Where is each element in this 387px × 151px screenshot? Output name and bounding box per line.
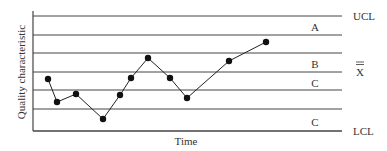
data-point <box>100 116 106 122</box>
zone-label-c-upper: C <box>311 77 318 89</box>
lcl-label: LCL <box>353 125 374 137</box>
data-point <box>117 92 123 98</box>
zone-label-a: A <box>311 21 319 33</box>
xbar-label: X <box>356 66 364 78</box>
zone-label-b: B <box>311 58 318 70</box>
data-point <box>184 95 190 101</box>
x-axis-label: Time <box>175 135 198 147</box>
data-point <box>54 99 60 105</box>
data-point <box>263 39 269 45</box>
data-point <box>45 76 51 82</box>
ucl-label: UCL <box>353 10 375 22</box>
series-line <box>48 42 266 119</box>
data-point <box>145 55 151 61</box>
data-point <box>226 58 232 64</box>
data-point <box>128 75 134 81</box>
data-point <box>167 75 173 81</box>
data-series <box>45 39 269 122</box>
data-point <box>73 91 79 97</box>
zone-label-c-lower: C <box>311 116 318 128</box>
y-axis-label: Quality characteristic <box>15 25 27 119</box>
control-lines <box>33 16 342 131</box>
control-chart: A B C C UCL X LCL Time Quality character… <box>0 0 387 151</box>
